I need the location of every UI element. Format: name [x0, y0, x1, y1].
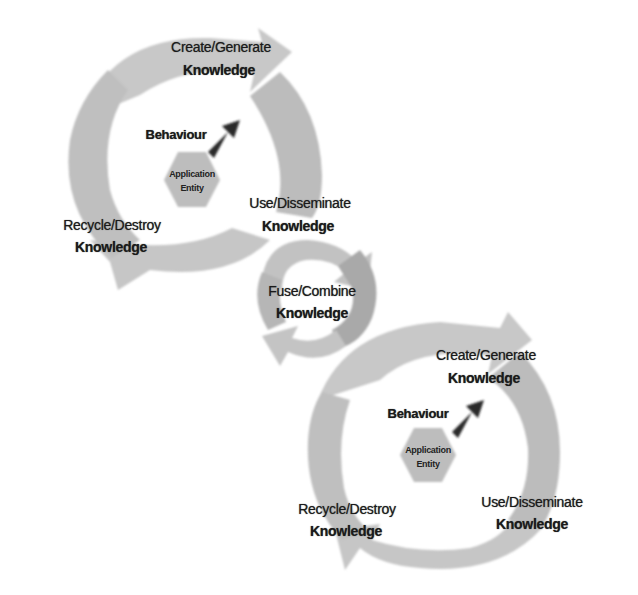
top-create-label: Create/Generate [171, 39, 271, 55]
fuse-arrow-left [257, 272, 286, 330]
bottom-create-label: Create/Generate [436, 347, 536, 363]
top-entity-label-line2: Entity [180, 182, 203, 195]
top-use-label: Use/Disseminate [249, 195, 350, 211]
bottom-recycle-label: Recycle/Destroy [298, 501, 395, 517]
bottom-recycle-knowledge-label: Knowledge [310, 523, 382, 539]
top-entity-label-line1: Application [169, 168, 215, 181]
bottom-create-knowledge-label: Knowledge [448, 370, 520, 386]
bottom-behaviour-label: Behaviour [388, 406, 449, 421]
bottom-use-label: Use/Disseminate [481, 494, 582, 510]
top-behaviour-label: Behaviour [146, 127, 207, 142]
top-create-knowledge-label: Knowledge [183, 62, 255, 78]
top-behaviour-arrow-icon [208, 120, 240, 158]
bottom-entity-label-line1: Application [405, 444, 451, 457]
bottom-cycle-arrow-left [308, 392, 370, 540]
top-use-knowledge-label: Knowledge [262, 218, 334, 234]
bottom-behaviour-arrow-icon [452, 400, 484, 438]
bottom-use-knowledge-label: Knowledge [496, 516, 568, 532]
fuse-label: Fuse/Combine [268, 283, 355, 299]
fuse-knowledge-label: Knowledge [276, 305, 348, 321]
top-recycle-knowledge-label: Knowledge [75, 239, 147, 255]
bottom-entity-label-line2: Entity [416, 458, 439, 471]
fuse-arrow-bottom [262, 326, 346, 366]
top-recycle-label: Recycle/Destroy [63, 217, 160, 233]
